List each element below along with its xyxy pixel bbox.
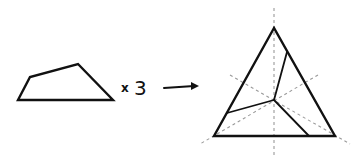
inner-cut-lines	[227, 52, 309, 136]
dissection-diagram: x 3	[0, 0, 362, 161]
right-arrow-icon	[164, 82, 199, 90]
multiplier-number: 3	[134, 76, 147, 100]
cut-line	[274, 52, 287, 100]
symmetry-axis-line	[230, 75, 350, 144]
multiply-sign: x	[121, 81, 129, 95]
quadrilateral-piece	[18, 64, 113, 100]
symmetry-axis-line	[200, 75, 318, 144]
